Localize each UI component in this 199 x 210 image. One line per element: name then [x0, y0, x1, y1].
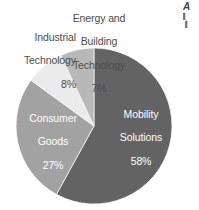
slice-label-energy-and-building-technology-line2: Building: [66, 36, 132, 48]
slice-label-industrial-technology-line1: Industrial: [0, 32, 76, 44]
slice-label-industrial-technology: Industrial Technology 8%: [0, 20, 76, 102]
slice-label-consumer-goods-line1: Consumer: [14, 113, 92, 125]
slice-label-consumer-goods-line2: Goods: [14, 136, 92, 148]
slice-label-mobility-solutions-line2: Solutions: [104, 132, 178, 144]
slice-value-consumer-goods: 27%: [14, 160, 92, 172]
slice-label-industrial-technology-line2: Technology: [0, 55, 76, 67]
clipped-corner-annotation: A ▌ ▐: [183, 2, 199, 28]
slice-label-mobility-solutions: Mobility Solutions 58%: [104, 97, 178, 179]
slice-label-energy-and-building-technology-line3: Technology: [66, 60, 132, 72]
slice-label-energy-and-building-technology-line1: Energy and: [66, 13, 132, 25]
slice-value-industrial-technology: 8%: [0, 79, 76, 91]
slice-label-mobility-solutions-line1: Mobility: [104, 109, 178, 121]
clipped-annotation-title: A: [183, 2, 199, 12]
pie-chart: Mobility Solutions 58% Consumer Goods 27…: [0, 0, 199, 210]
slice-value-mobility-solutions: 58%: [104, 156, 178, 168]
clipped-annotation-line1: ▌: [183, 12, 199, 20]
slice-value-energy-and-building-technology: 7%: [66, 83, 132, 95]
slice-label-energy-and-building-technology: Energy and Building Technology 7%: [66, 1, 132, 107]
slice-label-consumer-goods: Consumer Goods 27%: [14, 101, 92, 183]
clipped-annotation-line2: ▐: [183, 20, 199, 28]
